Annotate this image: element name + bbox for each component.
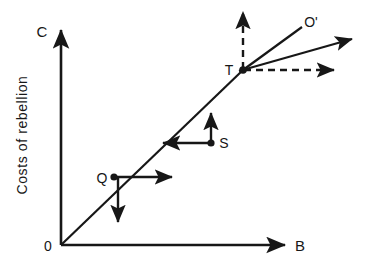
point-s-group [163, 113, 215, 147]
x-axis-tip-label: B [295, 237, 305, 254]
point-label-q: Q [97, 170, 108, 186]
y-axis-title: Costs of rebellion [14, 76, 30, 195]
point-label-o-prime: O' [304, 14, 318, 30]
main-locus-line [61, 27, 302, 245]
q-point-marker [110, 173, 117, 180]
point-q-group [110, 173, 172, 222]
point-label-s: S [219, 135, 228, 151]
point-label-t: T [225, 62, 234, 78]
y-axis-tip-label: C [37, 23, 48, 40]
t-ray-line [239, 39, 352, 71]
t-point-marker [239, 66, 247, 74]
point-t-group [239, 12, 334, 74]
s-point-marker [207, 139, 214, 146]
origin-label: 0 [44, 238, 52, 254]
diagram-canvas: C B 0 Q S T O' Costs of rebellion [0, 0, 375, 280]
diagram-figure: C B 0 Q S T O' Costs of rebellion [0, 0, 375, 280]
